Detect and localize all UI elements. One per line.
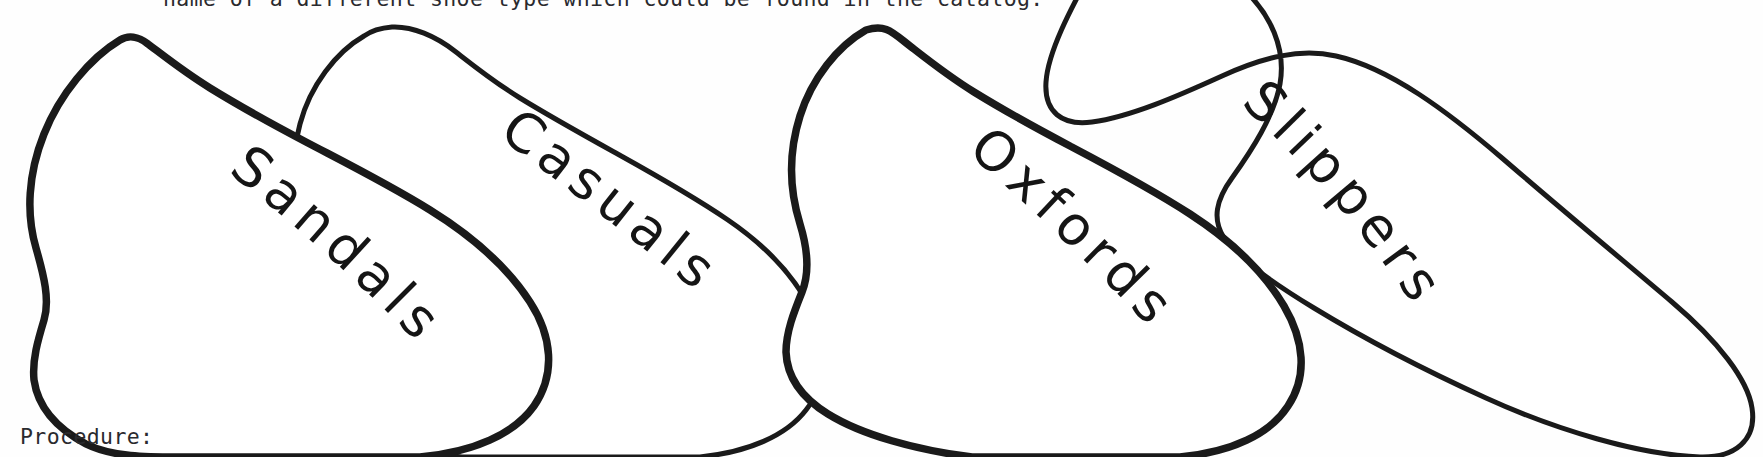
procedure-label: Procedure:: [20, 424, 153, 449]
shoe-outlines-illustration: Slippers Casuals Oxfords Sandals: [0, 0, 1763, 457]
worksheet-page: name of a different shoe type which coul…: [0, 0, 1763, 457]
shoe-oxfords: Oxfords: [786, 28, 1301, 457]
shoe-oxfords-outline: [786, 28, 1301, 457]
